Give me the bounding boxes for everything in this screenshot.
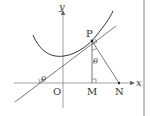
label-P: P — [86, 28, 93, 39]
label-M: M — [87, 86, 97, 97]
tangent-line — [15, 26, 116, 102]
y-axis-label: y — [58, 1, 65, 12]
angle-theta-intercept: θ — [41, 75, 46, 84]
angle-arc-intercept — [39, 79, 41, 84]
point-N — [118, 82, 120, 84]
diagram-canvas: y x O P M N θ θ — [0, 0, 150, 116]
x-axis-label: x — [136, 77, 142, 88]
angle-theta-P: θ — [93, 57, 98, 66]
label-N: N — [115, 86, 124, 97]
curve — [33, 11, 113, 56]
point-P — [91, 40, 94, 43]
origin-label: O — [53, 86, 61, 97]
right-angle-M — [92, 79, 96, 83]
angle-arc-P — [92, 49, 97, 51]
